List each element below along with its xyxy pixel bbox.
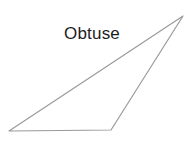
obtuse-triangle-graphic [0,0,184,142]
obtuse-triangle-shape [9,16,183,131]
figure-canvas: Obtuse [0,0,184,142]
